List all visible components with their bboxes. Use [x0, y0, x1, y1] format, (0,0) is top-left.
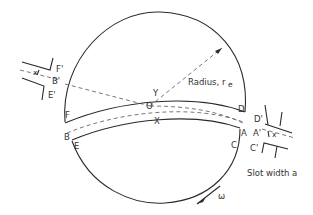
label-radius: Radius, r [188, 77, 226, 87]
label-d-prime: D' [254, 114, 263, 124]
label-x-left: x [33, 68, 38, 77]
label-b-prime: B' [52, 76, 60, 86]
label-a: A [241, 128, 247, 138]
label-f-prime: F' [56, 64, 63, 74]
label-x-point: X [154, 116, 160, 126]
label-c-prime: C' [250, 143, 258, 153]
slot-offset-line [150, 106, 243, 123]
label-a-prime: A' [253, 128, 261, 138]
label-radius-subscript: e [228, 80, 233, 89]
label-slot-width: Slot width a [247, 168, 297, 178]
label-x-right: x [272, 130, 277, 139]
label-y: Y [152, 88, 159, 98]
label-omega: ω [218, 191, 225, 201]
right-slot-detail [262, 105, 295, 158]
label-o: O [146, 101, 153, 111]
label-e: E [74, 141, 79, 151]
label-c: C [231, 140, 237, 150]
slotted-disk-diagram: F' B' E' x F B E Y O X D A C D' A' C' x … [0, 0, 313, 215]
label-e-prime: E' [48, 90, 56, 100]
upper-circle-arc [65, 12, 246, 122]
label-d: D [238, 104, 245, 114]
label-b: B [64, 132, 70, 142]
left-reference-line [65, 84, 150, 106]
lower-circle-arc [72, 129, 240, 203]
label-f: F [65, 110, 70, 120]
